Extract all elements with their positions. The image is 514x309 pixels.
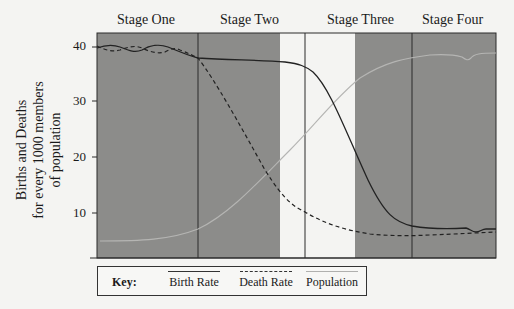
death-rate-swatch	[240, 271, 292, 272]
legend-item-death-rate: Death Rate	[236, 271, 296, 290]
shade-region-left	[97, 33, 280, 258]
legend-label-birth-rate: Birth Rate	[169, 275, 219, 289]
y-tick-marks	[92, 47, 97, 213]
legend-title: Key:	[112, 275, 137, 290]
shade-region-right	[355, 33, 496, 258]
light-region	[280, 33, 355, 258]
legend-label-population: Population	[306, 275, 358, 289]
birth-rate-swatch	[168, 271, 220, 272]
legend-label-death-rate: Death Rate	[239, 275, 293, 289]
population-swatch	[306, 271, 358, 272]
legend: Key: Birth Rate Death Rate Population	[97, 266, 367, 296]
legend-item-population: Population	[302, 271, 362, 290]
legend-item-birth-rate: Birth Rate	[164, 271, 224, 290]
transition-chart	[0, 0, 514, 309]
